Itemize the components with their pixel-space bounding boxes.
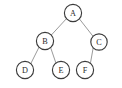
tree-node-label-d: D (22, 66, 28, 75)
tree-edge-b-d (31, 47, 39, 64)
tree-edge-a-c (79, 19, 93, 37)
tree-edge-c-f (90, 48, 93, 64)
tree-edge-a-b (51, 19, 67, 36)
tree-node-e[interactable]: E (52, 61, 69, 78)
tree-node-b[interactable]: B (36, 32, 53, 49)
tree-edge-b-e (51, 48, 57, 64)
tree-node-f[interactable]: F (76, 61, 93, 78)
tree-canvas: ABCDEF (0, 0, 122, 88)
tree-node-d[interactable]: D (16, 61, 33, 78)
tree-node-a[interactable]: A (64, 4, 81, 21)
tree-node-label-c: C (96, 38, 102, 47)
tree-nodes-group: ABCDEF (16, 4, 107, 78)
binary-tree-figure: ABCDEF (0, 0, 122, 88)
tree-node-label-e: E (58, 66, 63, 75)
tree-node-c[interactable]: C (91, 34, 107, 50)
tree-node-label-f: F (83, 66, 88, 75)
tree-node-label-b: B (42, 37, 48, 46)
tree-node-label-a: A (70, 9, 76, 18)
